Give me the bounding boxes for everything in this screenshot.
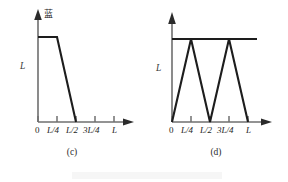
caption-c: (c) bbox=[0, 147, 144, 157]
caption-d: (d) bbox=[144, 147, 288, 157]
x-tick-label-c-1: L/4 bbox=[47, 126, 59, 135]
y-axis-d bbox=[168, 12, 176, 122]
y-axis-label-c: L bbox=[20, 62, 25, 72]
curve-c bbox=[38, 37, 76, 122]
panel-d: L 0 L/4 L/2 3L/4 L (d) bbox=[144, 0, 288, 182]
figure-root: 蓝 L 0 L/4 L/2 3L/4 L (c) bbox=[0, 0, 288, 182]
x-tick-label-c-2: L/2 bbox=[66, 126, 78, 135]
y-axis-label-d: L bbox=[156, 64, 161, 74]
x-tick-label-c-0: 0 bbox=[35, 126, 40, 135]
x-tick-label-d-4: L bbox=[246, 126, 251, 135]
x-tick-label-c-4: L bbox=[112, 126, 117, 135]
panel-c: 蓝 L 0 L/4 L/2 3L/4 L (c) bbox=[0, 0, 144, 182]
scan-artifact bbox=[72, 172, 222, 179]
x-tick-label-d-0: 0 bbox=[169, 126, 174, 135]
x-tick-label-d-2: L/2 bbox=[200, 126, 212, 135]
y-axis-c bbox=[34, 9, 42, 122]
x-tick-label-d-1: L/4 bbox=[181, 126, 193, 135]
x-tick-label-c-3: 3L/4 bbox=[83, 126, 100, 135]
y-axis-annotation-blue: 蓝 bbox=[44, 10, 53, 19]
curve-d bbox=[172, 39, 248, 122]
x-tick-label-d-3: 3L/4 bbox=[217, 126, 234, 135]
